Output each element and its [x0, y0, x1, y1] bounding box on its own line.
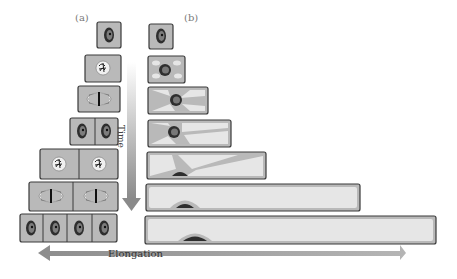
column-b: [145, 24, 436, 244]
cell-diagram-graphic: [0, 0, 457, 279]
elongation-arrow: [38, 245, 406, 261]
time-axis-label: Time: [116, 125, 126, 148]
elongation-axis-label: Elongation: [108, 248, 163, 259]
column-a: [20, 22, 121, 242]
